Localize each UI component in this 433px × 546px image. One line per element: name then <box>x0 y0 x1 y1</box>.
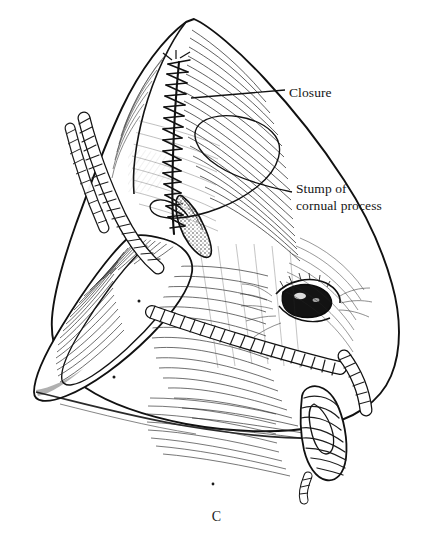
label-stump-line1: Stump of <box>296 181 347 196</box>
dehorning-closure-illustration <box>0 0 433 546</box>
label-stump-line2: cornual process <box>296 198 382 215</box>
label-closure: Closure <box>289 85 332 102</box>
label-stump: Stump of cornual process <box>296 181 382 214</box>
figure-panel: Closure Stump of cornual process C <box>0 0 433 546</box>
figure-caption: C <box>0 509 433 525</box>
